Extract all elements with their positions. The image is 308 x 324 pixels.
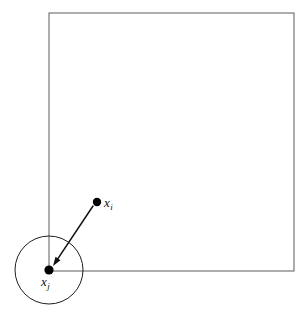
bounding-region-rect xyxy=(49,13,294,271)
arrow-head xyxy=(53,257,60,266)
point-xj-label-subscript: j xyxy=(47,281,50,291)
point-xi-label-base: x xyxy=(104,195,110,210)
point-xj-label-base: x xyxy=(41,274,47,289)
point-xi-dot xyxy=(93,198,101,206)
point-xj-label: xj xyxy=(41,275,49,288)
figure-canvas: xi xj xyxy=(0,0,308,324)
arrow-shaft xyxy=(57,206,93,260)
point-xi-label-subscript: i xyxy=(110,202,113,212)
point-xi-label: xi xyxy=(104,196,112,209)
